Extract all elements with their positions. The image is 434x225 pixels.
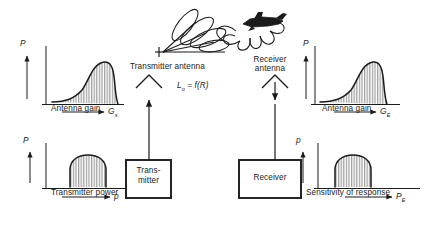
tx-gain-y-axis-label: P xyxy=(20,38,26,48)
receiver-antenna-line2: antenna xyxy=(242,64,298,73)
receiver-antenna-line1: Receiver xyxy=(242,55,298,64)
rx-sensitivity-x-axis-label: PE xyxy=(396,191,406,203)
tx-power-y-axis-label: P xyxy=(23,135,29,145)
path-loss-formula: Lo = f(R) xyxy=(177,81,209,92)
transmitter-antenna-label: Transmitter antenna xyxy=(130,62,205,71)
tx-gain-x-axis-label: Gs xyxy=(108,106,118,118)
rx-gain-x-subscript: E xyxy=(387,112,391,118)
rx-sensitivity-y-axis-label: p xyxy=(296,135,301,145)
tx-power-caption: Transmitter power xyxy=(51,188,118,197)
rx-gain-plot xyxy=(306,46,400,112)
transmitter-antenna-lobe-pattern xyxy=(155,6,230,57)
tx-gain-x-subscript: s xyxy=(115,112,118,118)
tx-power-x-axis-label: p xyxy=(114,191,119,201)
rx-sensitivity-x-subscript: E xyxy=(402,197,406,203)
receiver-antenna-label: Receiver antenna xyxy=(242,55,298,73)
receiver-feed xyxy=(262,75,288,160)
tx-gain-x-symbol: G xyxy=(108,106,115,116)
rx-sensitivity-caption: Sensitivity of response xyxy=(306,188,390,197)
rx-gain-x-axis-label: GE xyxy=(380,106,390,118)
tx-gain-plot xyxy=(27,46,124,112)
tx-gain-caption: Antenna gain xyxy=(51,104,100,113)
path-loss-rest: = f(R) xyxy=(185,81,209,90)
receiver-box-label: Receiver xyxy=(239,173,301,183)
transmitter-feed xyxy=(136,75,162,160)
diagram-canvas: P Antenna gain Gs P Transmitter power p … xyxy=(0,0,434,225)
aircraft-target-icon xyxy=(243,12,287,31)
rx-gain-caption: Antenna gain xyxy=(322,104,371,113)
transmitter-box-line2: mitter xyxy=(126,176,171,186)
rx-gain-y-axis-label: P xyxy=(303,38,309,48)
rx-gain-x-symbol: G xyxy=(380,106,387,116)
transmitter-box-label: Trans- mitter xyxy=(126,166,171,186)
transmitter-box-line1: Trans- xyxy=(126,166,171,176)
